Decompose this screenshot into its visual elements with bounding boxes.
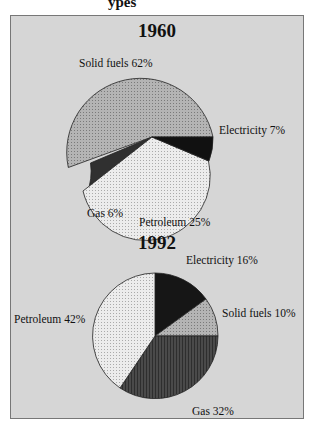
label-1992-gas: Gas 32% [192,405,234,417]
pie-1992 [93,273,218,399]
clipped-heading: ypes [108,0,136,11]
chart-title-1992: 1992 [11,232,303,254]
label-1960-electricity: Electricity 7% [219,124,285,136]
label-1960-solid-fuels: Solid fuels 62% [79,57,152,69]
label-1960-gas: Gas 6% [87,207,123,219]
label-1992-electricity: Electricity 16% [186,254,258,266]
chart-panel: 1960 Solid fuels 62% Electricity 7% Gas … [10,15,304,419]
chart-title-1960: 1960 [11,20,303,42]
label-1960-petroleum: Petroleum 25% [139,216,210,228]
label-1992-petroleum: Petroleum 42% [14,313,85,325]
label-1992-solid-fuels: Solid fuels 10% [222,307,295,319]
